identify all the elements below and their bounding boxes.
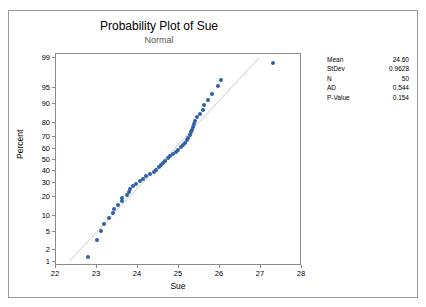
y-tick-label: 10: [22, 211, 50, 220]
y-tick-label: 5: [22, 227, 50, 236]
y-tick-label: 99: [22, 52, 50, 61]
y-tick-label: 20: [22, 192, 50, 201]
stat-row: N50: [327, 74, 409, 83]
stat-row: StDev0.9628: [327, 64, 409, 73]
stat-key: StDev: [327, 64, 369, 73]
data-point: [99, 229, 103, 233]
stat-key: AD: [327, 83, 369, 92]
stat-key: N: [327, 74, 369, 83]
x-tick-mark: [260, 265, 261, 268]
statistics-box: Mean24.60StDev0.9628N50AD0.544P-Value0.1…: [327, 55, 409, 102]
stat-value: 0.154: [369, 93, 409, 102]
stat-row: AD0.544: [327, 83, 409, 92]
y-tick-label: 30: [22, 178, 50, 187]
x-tick-mark: [55, 265, 56, 268]
stat-value: 0.9628: [369, 64, 409, 73]
x-tick-mark: [219, 265, 220, 268]
x-tick-label: 23: [81, 269, 111, 278]
data-point: [112, 207, 116, 211]
y-tick-label: 80: [22, 117, 50, 126]
stat-value: 0.544: [369, 83, 409, 92]
plot-area: [55, 53, 301, 265]
x-axis-label: Sue: [55, 281, 301, 291]
x-tick-mark: [301, 265, 302, 268]
chart-subtitle: Normal: [9, 35, 309, 45]
data-point: [198, 112, 202, 116]
stat-row: Mean24.60: [327, 55, 409, 64]
x-tick-mark: [96, 265, 97, 268]
x-tick-label: 28: [286, 269, 316, 278]
fit-line: [56, 54, 300, 264]
stat-value: 50: [369, 74, 409, 83]
data-point: [86, 255, 90, 259]
x-tick-mark: [137, 265, 138, 268]
data-point: [219, 78, 223, 82]
y-tick-label: 95: [22, 82, 50, 91]
data-point: [116, 203, 120, 207]
x-tick-mark: [178, 265, 179, 268]
probability-plot-screenshot: Probability Plot of Sue Normal Percent 1…: [0, 0, 426, 307]
y-tick-label: 60: [22, 143, 50, 152]
x-tick-label: 25: [163, 269, 193, 278]
data-point: [210, 92, 214, 96]
stat-row: P-Value0.154: [327, 93, 409, 102]
y-tick-label: 70: [22, 131, 50, 140]
x-tick-label: 24: [122, 269, 152, 278]
y-tick-label: 2: [22, 245, 50, 254]
data-point: [134, 182, 138, 186]
x-tick-label: 26: [204, 269, 234, 278]
x-tick-label: 27: [245, 269, 275, 278]
y-tick-label: 90: [22, 98, 50, 107]
stat-key: P-Value: [327, 93, 369, 102]
y-tick-label: 50: [22, 155, 50, 164]
chart-frame: Probability Plot of Sue Normal Percent 1…: [8, 10, 418, 298]
x-tick-label: 22: [40, 269, 70, 278]
y-tick-label: 1: [22, 257, 50, 266]
data-point: [216, 84, 220, 88]
y-tick-label: 40: [22, 166, 50, 175]
stat-value: 24.60: [369, 55, 409, 64]
data-point: [206, 98, 210, 102]
data-point: [201, 108, 205, 112]
chart-title: Probability Plot of Sue: [9, 19, 309, 33]
stat-key: Mean: [327, 55, 369, 64]
